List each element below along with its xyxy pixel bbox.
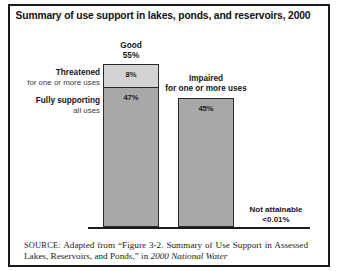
- source-prefix: SOURCE:: [24, 241, 61, 250]
- bar-segment-impaired: 45%: [178, 98, 234, 227]
- label-good-name: Good: [103, 41, 159, 51]
- label-not-attainable: Not attainable <0.01%: [240, 205, 312, 225]
- bar-segment-fully-supporting-value: 47%: [123, 93, 138, 102]
- label-fully-supporting: Fully supporting all uses: [12, 96, 100, 116]
- label-threatened-name: Threatened: [12, 68, 100, 78]
- label-threatened-sub: for one or more uses: [12, 78, 100, 88]
- source-italic-title: 2000 National Water: [151, 251, 228, 261]
- label-impaired-name: Impaired: [160, 74, 252, 84]
- label-not-attainable-name: Not attainable: [240, 205, 312, 215]
- axis-baseline: [88, 227, 310, 229]
- bar-good: 8% 47%: [103, 64, 159, 227]
- label-fully-supporting-name: Fully supporting: [12, 96, 100, 106]
- chart-plot-area: Good 55% Threatened for one or more uses…: [0, 0, 337, 271]
- bar-segment-impaired-value: 45%: [198, 104, 213, 113]
- label-impaired-sub: for one or more uses: [160, 84, 252, 94]
- bar-impaired: 45%: [178, 98, 234, 227]
- figure-root: Summary of use support in lakes, ponds, …: [0, 0, 337, 271]
- label-not-attainable-value: <0.01%: [240, 215, 312, 225]
- label-good-value: 55%: [103, 51, 159, 61]
- label-threatened: Threatened for one or more uses: [12, 68, 100, 88]
- source-note: SOURCE: Adapted from “Figure 3-2. Summar…: [24, 240, 308, 263]
- bar-segment-threatened: 8%: [103, 64, 159, 88]
- bar-segment-fully-supporting: 47%: [103, 87, 159, 227]
- label-good: Good 55%: [103, 41, 159, 61]
- label-fully-supporting-sub: all uses: [12, 106, 100, 116]
- bar-segment-threatened-value: 8%: [126, 70, 137, 79]
- label-impaired: Impaired for one or more uses: [160, 74, 252, 94]
